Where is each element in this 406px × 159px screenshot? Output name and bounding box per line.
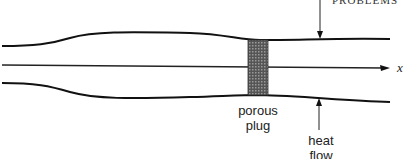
top-heat-arrowhead: [317, 31, 323, 39]
tube-top-wall: [2, 32, 390, 46]
porous-plug-label-line2: plug: [232, 118, 284, 133]
x-axis-arrowhead: [380, 65, 390, 71]
bottom-heat-arrowhead: [316, 98, 322, 106]
porous-plug: [248, 40, 268, 95]
heat-flow-label: heat flow: [303, 133, 339, 159]
heat-flow-label-line1: heat: [303, 133, 339, 148]
porous-plug-diagram: [0, 0, 406, 159]
heat-flow-label-line2: flow: [303, 148, 339, 159]
porous-plug-label: porous plug: [232, 103, 284, 133]
porous-plug-label-line1: porous: [232, 103, 284, 118]
x-axis-label: x: [397, 60, 403, 76]
tube-bottom-wall: [2, 83, 390, 102]
x-axis-line: [2, 65, 385, 68]
